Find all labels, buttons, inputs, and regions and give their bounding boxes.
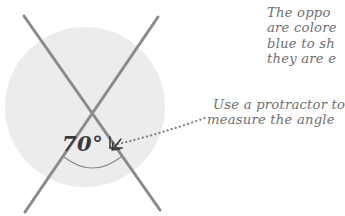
note-bottom-line-1: Use a protractor to xyxy=(213,97,345,112)
note-top-line-3: blue to sh xyxy=(267,36,337,51)
angle-label: 70° xyxy=(62,131,103,156)
diagram-canvas: 70° The oppo are colore blue to sh they … xyxy=(0,0,345,216)
note-bottom-line-2: measure the angle xyxy=(207,112,345,127)
shaded-circle xyxy=(5,27,165,187)
note-top-line-4: they are e xyxy=(267,51,337,66)
protractor-note: Use a protractor to measure the angle xyxy=(213,97,345,128)
note-top-line-2: are colore xyxy=(267,20,337,35)
note-top-line-1: The oppo xyxy=(267,5,337,20)
opposite-angles-note: The oppo are colore blue to sh they are … xyxy=(267,5,337,67)
